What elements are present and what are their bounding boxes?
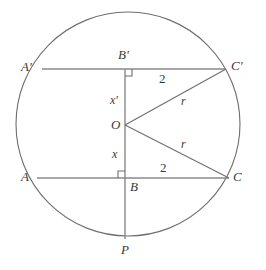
right-angle-marker-b-prime bbox=[125, 69, 132, 76]
label-b: B bbox=[130, 180, 138, 193]
label-a: A bbox=[21, 170, 29, 183]
label-p: P bbox=[121, 243, 129, 256]
label-a-prime: A' bbox=[21, 60, 32, 73]
label-b-prime: B' bbox=[118, 48, 129, 61]
label-r-lower: r bbox=[181, 138, 186, 150]
label-two-upper: 2 bbox=[159, 72, 166, 85]
label-x-prime: x' bbox=[110, 94, 118, 106]
label-x: x bbox=[112, 148, 117, 160]
label-o: O bbox=[111, 118, 120, 131]
geometry-diagram: A' B' C' A B C O P x' x r r 2 2 bbox=[0, 0, 266, 270]
geometry-canvas bbox=[0, 0, 266, 270]
radius-to-c-line bbox=[125, 125, 229, 178]
label-r-upper: r bbox=[181, 95, 186, 107]
label-c-prime: C' bbox=[231, 59, 242, 72]
radius-to-c-prime-line bbox=[125, 69, 226, 125]
right-angle-marker-b bbox=[118, 171, 125, 178]
label-c: C bbox=[233, 170, 242, 183]
main-circle bbox=[16, 12, 240, 236]
label-two-lower: 2 bbox=[160, 161, 167, 174]
